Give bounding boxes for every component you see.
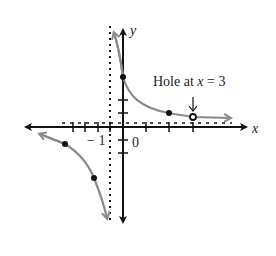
point-2-1 [166, 110, 172, 116]
point-neg4 [62, 141, 68, 147]
x-axis-label: x [251, 121, 259, 136]
down-arrow-icon [189, 97, 197, 111]
graph: y x 0 − 1 Hole at x = 3 [0, 0, 276, 256]
hole-annotation: Hole at x = 3 [153, 74, 225, 89]
hole-point [190, 114, 196, 120]
neg-one-label: − 1 [87, 133, 105, 148]
y-axis-label: y [128, 23, 137, 38]
origin-label: 0 [132, 135, 139, 150]
point-neg2 [91, 175, 97, 181]
point-0-4 [120, 74, 126, 80]
